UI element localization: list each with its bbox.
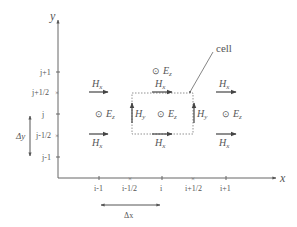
hx-arrow-top-left: Hx [89, 78, 108, 92]
cross-marker: × [191, 175, 195, 183]
svg-text:Ez: Ez [162, 65, 172, 78]
x-tick-i+1: i+1 [220, 184, 231, 193]
y-ticks: j+1 × j+1/2 j × j-1/2 j-1 [31, 68, 60, 162]
ez-mid-left: ⊙ Ez [95, 108, 115, 121]
x-axis: x [58, 171, 286, 185]
ez-top: ⊙ Ez [152, 65, 172, 78]
delta-y-dimension: Δy [15, 116, 30, 156]
delta-y-label: Δy [15, 131, 25, 141]
delta-x-dimension: Δx [101, 205, 160, 220]
cell-label: cell [216, 42, 232, 54]
svg-text:⊙: ⊙ [152, 66, 160, 76]
svg-text:Hx: Hx [218, 137, 230, 150]
ez-mid-center: ⊙ Ez [157, 108, 177, 121]
svg-text:Hx: Hx [154, 78, 166, 91]
x-tick-i: i [160, 184, 163, 193]
y-tick-j+1/2: j+1/2 [31, 88, 49, 97]
yee-grid-diagram: y x j+1 × j+1/2 j × j-1/2 j-1 i-1 × i-1/… [0, 0, 297, 227]
svg-text:Hx: Hx [154, 137, 166, 150]
diagram-svg: y x j+1 × j+1/2 j × j-1/2 j-1 i-1 × i-1/… [0, 0, 297, 227]
hy-arrow-left: Hy [132, 103, 146, 123]
hx-arrow-top-right: Hx [216, 78, 236, 92]
hx-arrow-bottom-left: Hx [89, 134, 108, 150]
y-axis-label: y [49, 9, 56, 23]
y-tick-j-1: j-1 [41, 153, 51, 162]
svg-text:Hy: Hy [134, 108, 146, 121]
svg-text:Hx: Hx [218, 78, 230, 91]
svg-text:Ez: Ez [232, 108, 242, 121]
cross-marker: × [55, 89, 59, 97]
x-tick-i+1/2: i+1/2 [185, 184, 202, 193]
hx-arrow-bottom-mid: Hx [152, 134, 172, 150]
svg-text:Hy: Hy [196, 108, 208, 121]
hx-arrow-bottom-right: Hx [216, 134, 236, 150]
svg-text:Hx: Hx [91, 137, 103, 150]
svg-text:Ez: Ez [105, 108, 115, 121]
hx-arrow-top-mid: Hx [152, 78, 172, 92]
delta-x-label: Δx [124, 211, 133, 220]
y-tick-j: j [41, 110, 44, 119]
hy-arrow-right: Hy [194, 103, 208, 123]
y-tick-j+1: j+1 [39, 68, 51, 77]
x-tick-i-1/2: i-1/2 [122, 184, 137, 193]
x-tick-i-1: i-1 [94, 184, 103, 193]
svg-text:⊙: ⊙ [157, 109, 165, 119]
ez-mid-right: ⊙ Ez [222, 108, 242, 121]
y-tick-j-1/2: j-1/2 [35, 131, 51, 140]
svg-text:⊙: ⊙ [95, 109, 103, 119]
svg-text:⊙: ⊙ [222, 109, 230, 119]
svg-text:Ez: Ez [167, 108, 177, 121]
x-axis-label: x [279, 171, 286, 185]
svg-text:Hx: Hx [91, 78, 103, 91]
cross-marker: × [55, 132, 59, 140]
cross-marker: × [128, 175, 132, 183]
